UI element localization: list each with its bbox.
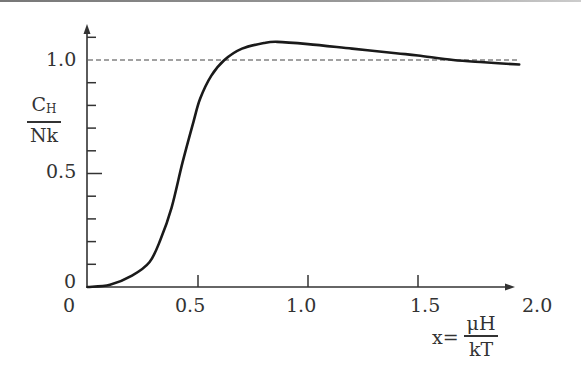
x-label-denominator: kT bbox=[464, 339, 498, 359]
y-axis-ticks bbox=[87, 37, 102, 264]
y-label-denominator: Nk bbox=[27, 125, 61, 145]
x-tick-label-0: 0 bbox=[63, 294, 75, 316]
x-axis-label: μH kT bbox=[464, 313, 498, 359]
x-tick-label-2.0: 2.0 bbox=[522, 294, 552, 316]
y-tick-label-0: 0 bbox=[64, 270, 76, 292]
y-axis-arrow-icon bbox=[84, 24, 91, 34]
x-axis-arrow-icon bbox=[505, 284, 515, 291]
x-axis-ticks bbox=[198, 275, 418, 287]
y-tick-label-0.5: 0.5 bbox=[46, 160, 76, 182]
x-tick-label-0.5: 0.5 bbox=[175, 294, 205, 316]
x-tick-label-1.0: 1.0 bbox=[286, 294, 316, 316]
y-label-fraction-bar bbox=[27, 121, 61, 123]
x-label-numerator: μH bbox=[464, 313, 498, 333]
data-curve bbox=[88, 42, 519, 287]
x-label-fraction-bar bbox=[464, 335, 498, 337]
y-label-subscript: H bbox=[46, 102, 56, 116]
y-tick-label-1.0: 1.0 bbox=[46, 48, 76, 70]
x-tick-label-1.5: 1.5 bbox=[410, 294, 440, 316]
y-axis-label: CH Nk bbox=[27, 94, 61, 145]
x-axis-label-prefix: x= bbox=[432, 326, 459, 348]
y-label-numerator: C bbox=[31, 93, 46, 115]
